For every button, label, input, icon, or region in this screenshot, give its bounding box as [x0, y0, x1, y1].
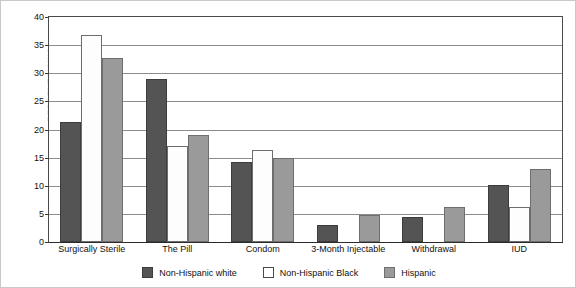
y-axis-tick-label: 30: [34, 68, 44, 78]
bar-group: [306, 17, 392, 242]
legend-label: Hispanic: [401, 268, 436, 278]
legend-swatch-icon: [263, 267, 274, 278]
legend-item[interactable]: Non-Hispanic Black: [263, 267, 359, 278]
bar: [359, 215, 380, 242]
y-axis-tick-label: 5: [39, 209, 44, 219]
y-axis-tick-label: 20: [34, 125, 44, 135]
bar-chart-figure: PERCENT USING 0510152025303540 Surgicall…: [0, 0, 576, 288]
y-axis-tick-label: 25: [34, 96, 44, 106]
legend-label: Non-Hispanic Black: [280, 268, 359, 278]
bar: [509, 207, 530, 242]
y-axis-tick-label: 35: [34, 40, 44, 50]
x-axis-labels: Surgically SterileThe PillCondom3-Month …: [49, 244, 562, 254]
y-axis-tick-label: 15: [34, 153, 44, 163]
bar-group: [477, 17, 563, 242]
bar: [231, 162, 252, 242]
x-axis-tick-label: Surgically Sterile: [49, 244, 135, 254]
legend-swatch-icon: [142, 267, 153, 278]
bar-group: [220, 17, 306, 242]
x-axis-tick-label: IUD: [477, 244, 563, 254]
bar-group: [49, 17, 135, 242]
x-axis-tick-label: Condom: [220, 244, 306, 254]
bar: [317, 225, 338, 242]
bar: [60, 122, 81, 242]
plot-area: 0510152025303540: [48, 16, 563, 243]
bar: [102, 58, 123, 243]
bar-groups: [49, 17, 562, 242]
legend-item[interactable]: Non-Hispanic white: [142, 267, 237, 278]
legend-swatch-icon: [384, 267, 395, 278]
bar: [146, 79, 167, 242]
y-axis-tick-label: 10: [34, 181, 44, 191]
bar: [530, 169, 551, 242]
bar: [188, 135, 209, 242]
x-axis-tick-label: Withdrawal: [391, 244, 477, 254]
bar: [81, 35, 102, 242]
y-axis-tick-mark: [45, 242, 49, 243]
bar: [252, 150, 273, 242]
bar: [273, 158, 294, 242]
x-axis-tick-label: 3-Month Injectable: [306, 244, 392, 254]
x-axis-tick-label: The Pill: [135, 244, 221, 254]
legend-item[interactable]: Hispanic: [384, 267, 436, 278]
bar-group: [135, 17, 221, 242]
bar: [488, 185, 509, 242]
bar: [167, 146, 188, 242]
chart-legend: Non-Hispanic whiteNon-Hispanic BlackHisp…: [1, 267, 576, 278]
y-axis-tick-label: 0: [39, 237, 44, 247]
bar-group: [391, 17, 477, 242]
legend-label: Non-Hispanic white: [159, 268, 237, 278]
bar: [444, 207, 465, 242]
y-axis-tick-label: 40: [34, 12, 44, 22]
bar: [402, 217, 423, 242]
